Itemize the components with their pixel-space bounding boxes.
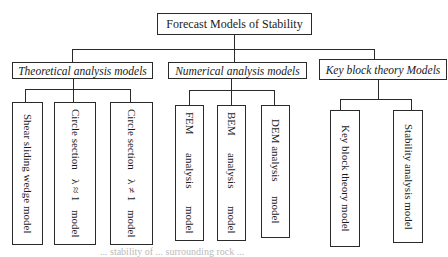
root-label: Forecast Models of Stability (166, 17, 302, 32)
leaf-label: Shear sliding wedge model (22, 114, 33, 233)
connector (231, 79, 232, 90)
connector (25, 89, 131, 90)
leaf-label: Circle section (70, 109, 81, 170)
leaf-label: Key block theory model (340, 125, 351, 232)
connector (231, 90, 232, 105)
category-label: Numerical analysis models (175, 65, 300, 77)
leaf-shear-sliding-wedge: Shear sliding wedge model (12, 102, 43, 245)
leaf-label: model (184, 206, 195, 234)
leaf-label: λ ≠ 1 (126, 179, 137, 201)
category-theoretical: Theoretical analysis models (12, 62, 153, 79)
leaf-label: model (226, 206, 237, 234)
figure-caption: ... stability of ... surrounding rock ..… (100, 246, 244, 257)
leaf-label: model (126, 210, 137, 238)
leaf-label: model (270, 196, 281, 224)
category-numerical: Numerical analysis models (168, 62, 307, 79)
connector (130, 89, 131, 102)
leaf-key-block-theory: Key block theory model (330, 110, 360, 247)
root-node: Forecast Models of Stability (157, 13, 312, 35)
connector (340, 99, 412, 100)
leaf-fem: FEM analysis model (175, 105, 204, 241)
leaf-label: model (70, 210, 81, 238)
leaf-label: λ ≈ 1 (70, 179, 81, 201)
connector (340, 99, 341, 110)
leaf-dem: DEM analysis model (261, 105, 290, 238)
leaf-label: analysis (226, 153, 237, 188)
leaf-stability-analysis: Stability analysis model (393, 110, 423, 243)
connector (374, 49, 375, 59)
connector (274, 90, 275, 105)
leaf-label: analysis (184, 153, 195, 188)
leaf-bem: BEM analysis model (217, 105, 246, 241)
connector (189, 90, 190, 105)
leaf-label: FEM (184, 112, 195, 135)
category-key-block: Key block theory Models (319, 59, 447, 80)
connector (73, 79, 74, 89)
connector (25, 89, 26, 102)
leaf-label: Stability analysis model (403, 124, 414, 230)
leaf-label: DEM analysis (270, 119, 281, 182)
leaf-circle-section-neq: Circle section λ ≠ 1 model (110, 102, 153, 245)
connector (72, 49, 73, 62)
leaf-circle-section-approx: Circle section λ ≈ 1 model (54, 102, 96, 245)
connector (378, 80, 379, 99)
leaf-label: BEM (226, 112, 237, 136)
category-label: Theoretical analysis models (18, 65, 147, 77)
connector (234, 35, 235, 49)
leaf-label: Circle section (126, 109, 137, 170)
connector (73, 89, 74, 102)
connector (411, 99, 412, 110)
connector (189, 90, 275, 91)
connector (72, 49, 375, 50)
category-label: Key block theory Models (326, 64, 441, 76)
connector (234, 49, 235, 62)
